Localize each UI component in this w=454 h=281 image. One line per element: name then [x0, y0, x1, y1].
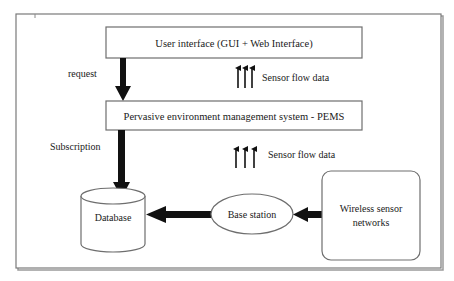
- user-interface-node: User interface (GUI + Web Interface): [106, 27, 362, 58]
- base-station-node: Base station: [211, 194, 293, 234]
- request-label: request: [68, 68, 97, 79]
- database-label: Database: [95, 212, 132, 223]
- database-node: Database: [81, 188, 145, 252]
- sensor-flow-label-upper: Sensor flow data: [262, 72, 330, 83]
- subscription-label: Subscription: [50, 141, 101, 152]
- pems-node: Pervasive environment management system …: [106, 101, 362, 130]
- pems-label: Pervasive environment management system …: [124, 111, 345, 122]
- wsn-label-line2: networks: [353, 217, 390, 228]
- sensor-flow-label-lower: Sensor flow data: [268, 149, 336, 160]
- wsn-label-line1: Wireless sensor: [340, 203, 403, 214]
- wireless-sensor-networks-node: Wireless sensor networks: [322, 171, 420, 260]
- user-interface-label: User interface (GUI + Web Interface): [155, 38, 313, 50]
- architecture-diagram: User interface (GUI + Web Interface) req…: [0, 0, 454, 281]
- base-station-label: Base station: [228, 209, 277, 220]
